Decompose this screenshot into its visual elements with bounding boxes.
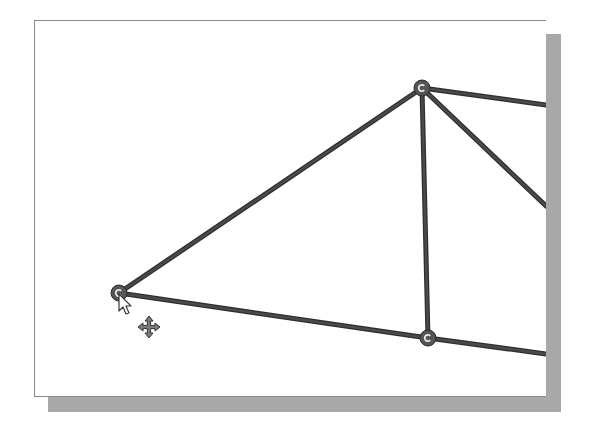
truss-drawing[interactable]: [0, 0, 592, 437]
truss-viewport-figure: [0, 0, 592, 437]
move-arrows-icon: [138, 316, 160, 338]
left-bottom-chord-core: [119, 293, 428, 338]
truss-members: [119, 88, 546, 354]
left-top-chord-core: [119, 88, 422, 293]
right-bottom-chord-core: [428, 338, 546, 354]
top-joint[interactable]: [414, 80, 430, 96]
truss-joints: [111, 80, 436, 346]
right-diagonal-core: [422, 88, 546, 206]
bottom-joint[interactable]: [420, 330, 436, 346]
